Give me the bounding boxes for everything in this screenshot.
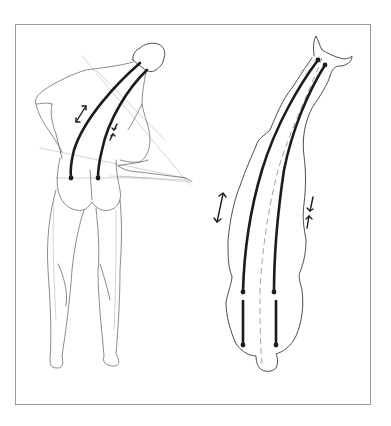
horse-dot-bottom-right: [274, 343, 279, 348]
human-spine-dot-right: [96, 176, 101, 181]
human-spine-dot-left: [69, 176, 74, 181]
human-head: [133, 43, 165, 71]
illustration: [0, 0, 391, 426]
human-hips: [57, 158, 120, 211]
human-figure: [35, 43, 192, 368]
horse-dot-top-left: [316, 58, 321, 63]
human-compression-arrows-icon: [110, 124, 117, 140]
horse-dot-bottom-left: [241, 343, 246, 348]
human-stretch-double-arrow-icon: [76, 106, 86, 122]
human-left-leg: [47, 190, 84, 368]
horse-compression-arrows-icon: [306, 197, 313, 228]
horse-dot-mid-left: [241, 290, 246, 295]
horse-dot-mid-right: [272, 290, 277, 295]
horse-stretch-double-arrow-icon: [214, 193, 226, 222]
horse-figure: [214, 36, 352, 371]
human-right-leg: [96, 200, 122, 366]
construction-lines: [40, 56, 190, 185]
horse-dot-top-right: [323, 63, 328, 68]
human-spine-line-left: [71, 63, 140, 178]
horse-head: [314, 36, 353, 76]
